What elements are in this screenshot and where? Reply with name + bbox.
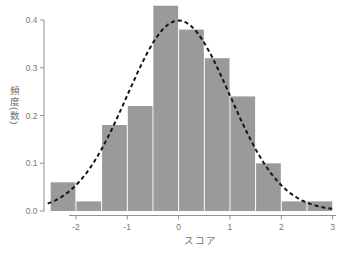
x-tick-label: -2	[72, 222, 80, 232]
histogram-bar	[128, 106, 153, 211]
y-tick-label: 0.3	[26, 63, 38, 73]
y-tick-label: 0.4	[26, 15, 38, 25]
histogram-bar	[179, 30, 204, 211]
x-tick-label: 1	[228, 222, 233, 232]
histogram-bar	[205, 58, 230, 211]
x-axis-title: スコア	[150, 233, 250, 247]
y-tick-label: 0.2	[26, 111, 38, 121]
y-axis-title: 頻度(数)	[9, 86, 20, 125]
histogram-chart: 0.00.10.20.30.4-2-10123	[0, 0, 344, 255]
histogram-bar	[76, 201, 101, 211]
x-tick-label: 3	[330, 222, 335, 232]
histogram-figure: 0.00.10.20.30.4-2-10123 頻度(数) スコア	[0, 0, 344, 255]
x-tick-label: 2	[279, 222, 284, 232]
histogram-bar	[102, 125, 127, 211]
x-tick-label: 0	[176, 222, 181, 232]
y-tick-label: 0.1	[26, 158, 38, 168]
x-tick-label: -1	[123, 222, 131, 232]
histogram-bar	[308, 201, 333, 211]
y-tick-label: 0.0	[26, 206, 38, 216]
histogram-bar	[230, 96, 255, 211]
histogram-bar	[256, 163, 281, 211]
histogram-bar	[282, 201, 307, 211]
